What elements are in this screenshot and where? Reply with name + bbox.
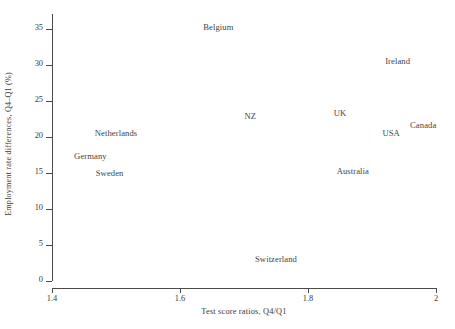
x-tick-mark (180, 288, 181, 293)
y-tick-label: 0 (39, 275, 43, 284)
data-point-nz: NZ (245, 111, 257, 121)
data-point-sweden: Sweden (96, 168, 124, 178)
y-tick-mark (46, 281, 52, 282)
y-tick-mark (46, 137, 52, 138)
x-tick-label: 1.4 (32, 294, 72, 303)
y-tick-label: 30 (35, 59, 43, 68)
data-point-canada: Canada (410, 120, 436, 130)
y-tick-label: 35 (35, 23, 43, 32)
x-tick-label: 1.6 (160, 294, 200, 303)
y-tick-label: 5 (39, 239, 43, 248)
x-tick-label: 2 (416, 294, 455, 303)
scatter-chart: Employment rate differences, Q4–Q1 (%) T… (0, 0, 455, 329)
x-tick-label: 1.8 (288, 294, 328, 303)
data-point-netherlands: Netherlands (95, 128, 137, 138)
y-tick-mark (46, 209, 52, 210)
data-point-germany: Germany (74, 151, 107, 161)
data-point-usa: USA (382, 128, 399, 138)
y-tick-mark (46, 245, 52, 246)
y-axis-title: Employment rate differences, Q4–Q1 (%) (2, 4, 16, 284)
data-point-belgium: Belgium (203, 22, 233, 32)
x-tick-mark (436, 288, 437, 293)
y-tick-mark (46, 65, 52, 66)
x-axis-title: Test score ratios, Q4/Q1 (52, 307, 436, 316)
data-point-switzerland: Switzerland (255, 254, 297, 264)
x-axis-spine (52, 288, 436, 289)
y-tick-mark (46, 173, 52, 174)
data-point-ireland: Ireland (385, 56, 410, 66)
data-point-australia: Australia (337, 166, 369, 176)
y-tick-label: 25 (35, 95, 43, 104)
y-tick-label: 10 (35, 203, 43, 212)
y-tick-mark (46, 101, 52, 102)
data-point-uk: UK (334, 108, 347, 118)
y-tick-label: 20 (35, 131, 43, 140)
x-tick-mark (52, 288, 53, 293)
y-tick-mark (46, 29, 52, 30)
y-axis-spine (52, 14, 53, 281)
y-tick-label: 15 (35, 167, 43, 176)
x-tick-mark (308, 288, 309, 293)
